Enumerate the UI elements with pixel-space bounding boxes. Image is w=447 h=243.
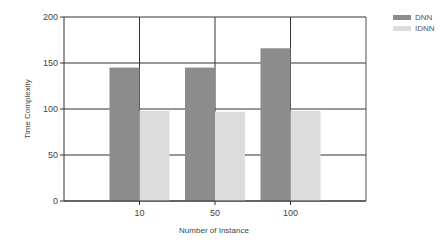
bar-dnn-50 <box>185 68 215 201</box>
x-axis-title: Number of Instance <box>179 226 249 235</box>
x-tick-label: 10 <box>134 208 144 218</box>
y-tick-label: 200 <box>43 12 58 22</box>
x-axis-ticks: 1050100 <box>134 201 298 218</box>
legend-item-dnn: DNN <box>393 12 435 23</box>
bar-dnn-10 <box>110 68 140 201</box>
bar-idnn-100 <box>291 111 321 201</box>
y-axis-title: Time Complexity <box>23 79 32 138</box>
bar-idnn-50 <box>215 112 245 201</box>
y-axis-ticks: 050100150200 <box>43 12 64 206</box>
legend-label-dnn: DNN <box>415 13 432 22</box>
bar-idnn-10 <box>140 111 170 201</box>
y-tick-label: 150 <box>43 58 58 68</box>
y-tick-label: 100 <box>43 104 58 114</box>
legend-swatch-idnn <box>393 26 411 31</box>
bar-chart: 050100150200 1050100 Number of Instance … <box>0 0 447 243</box>
bars <box>110 48 321 201</box>
legend-swatch-dnn <box>393 15 411 20</box>
legend-label-idnn: IDNN <box>415 24 435 33</box>
x-tick-label: 100 <box>283 208 298 218</box>
legend-item-idnn: IDNN <box>393 23 435 34</box>
y-tick-label: 50 <box>48 150 58 160</box>
y-tick-label: 0 <box>53 196 58 206</box>
x-tick-label: 50 <box>210 208 220 218</box>
legend: DNN IDNN <box>393 12 435 34</box>
bar-dnn-100 <box>261 48 291 201</box>
